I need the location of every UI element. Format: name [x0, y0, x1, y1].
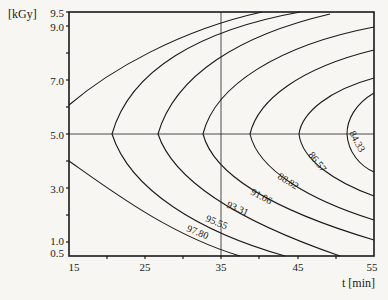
y-tick-1-0: 1.0	[50, 235, 64, 247]
contour-label-97-80: 97.80	[185, 223, 210, 242]
contour-chart: 97.80 95.55 93.31 91.06 88.82 86.57 84.3…	[0, 0, 388, 300]
x-axis-title: t [min]	[342, 276, 375, 290]
y-tick-5-0: 5.0	[50, 129, 64, 141]
x-tick-labels: 15 25 35 45 55	[69, 261, 379, 273]
contour-label-95-55: 95.55	[204, 213, 229, 232]
contour-86-57	[299, 78, 374, 196]
y-tick-9-5: 9.5	[50, 7, 64, 19]
contour-label-84-33: 84.33	[347, 129, 367, 154]
y-tick-3-0: 3.0	[50, 183, 64, 195]
contour-label-88-82: 88.82	[276, 170, 301, 191]
y-tick-7-0: 7.0	[50, 75, 64, 87]
x-tick-15: 15	[69, 261, 81, 273]
x-tick-25: 25	[140, 261, 152, 273]
contour-labels: 97.80 95.55 93.31 91.06 88.82 86.57 84.3…	[185, 129, 367, 242]
x-tick-45: 45	[293, 261, 305, 273]
contour-label-86-57: 86.57	[306, 149, 329, 174]
x-tick-55: 55	[367, 261, 379, 273]
contour-label-91-06: 91.06	[249, 186, 274, 206]
y-tick-0-5: 0.5	[50, 247, 64, 259]
y-tick-9-0: 9.0	[50, 21, 64, 33]
y-axis-title: [kGy]	[8, 7, 37, 21]
y-tick-labels: 9.5 9.0 7.0 5.0 3.0 1.0 0.5	[50, 7, 64, 259]
contour-label-93-31: 93.31	[225, 199, 250, 218]
x-tick-35: 35	[216, 261, 228, 273]
